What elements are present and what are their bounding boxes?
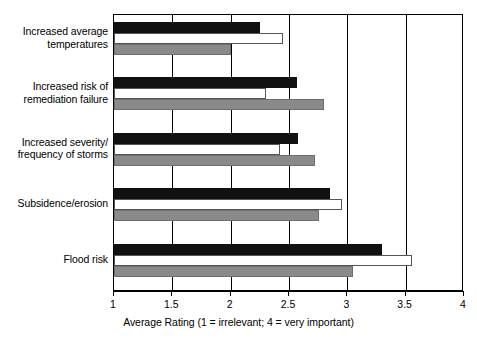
x-tick <box>113 291 114 296</box>
bar-residential <box>114 210 319 221</box>
bar-chart-figure: Increased averagetemperaturesIncreased r… <box>0 0 477 339</box>
bar-group <box>114 70 462 125</box>
bar-commercial <box>114 255 412 266</box>
category-label-line: Increased severity/ <box>0 136 108 149</box>
bar-residential <box>114 155 315 166</box>
x-tick <box>171 291 172 296</box>
bar-group <box>114 181 462 236</box>
x-tick-label: 4 <box>460 298 466 310</box>
category-label-line: remediation failure <box>0 93 108 106</box>
x-tick-label: 1 <box>110 298 116 310</box>
plot-area: Both Commercial Residential <box>113 14 463 291</box>
bar-both <box>114 244 382 255</box>
bar-residential <box>114 99 324 110</box>
category-label-line: frequency of storms <box>0 148 108 161</box>
bar-series-container <box>114 15 462 290</box>
bar-group <box>114 15 462 70</box>
bar-both <box>114 188 330 199</box>
x-tick-label: 2.5 <box>281 298 296 310</box>
category-label-line: temperatures <box>0 38 108 51</box>
category-label-line: Flood risk <box>0 253 108 266</box>
x-axis: 11.522.533.54 <box>113 291 463 292</box>
bar-commercial <box>114 88 266 99</box>
category-label-line: Subsidence/erosion <box>0 197 108 210</box>
x-tick <box>405 291 406 296</box>
x-tick <box>288 291 289 296</box>
x-tick <box>463 291 464 296</box>
bar-residential <box>114 44 231 55</box>
x-tick <box>230 291 231 296</box>
bar-residential <box>114 266 353 277</box>
bar-group <box>114 237 462 292</box>
x-tick-label: 1.5 <box>164 298 179 310</box>
bar-commercial <box>114 144 280 155</box>
bar-commercial <box>114 199 342 210</box>
x-tick <box>346 291 347 296</box>
x-tick-label: 2 <box>227 298 233 310</box>
bar-both <box>114 22 260 33</box>
bar-both <box>114 133 298 144</box>
bar-both <box>114 77 297 88</box>
category-label: Increased severity/frequency of storms <box>0 136 108 161</box>
category-label: Flood risk <box>0 253 108 266</box>
category-label: Increased averagetemperatures <box>0 25 108 50</box>
x-tick-label: 3 <box>343 298 349 310</box>
bar-group <box>114 126 462 181</box>
category-label-line: Increased risk of <box>0 80 108 93</box>
category-label: Increased risk ofremediation failure <box>0 80 108 105</box>
x-tick-label: 3.5 <box>397 298 412 310</box>
bar-commercial <box>114 33 283 44</box>
x-axis-title: Average Rating (1 = irrelevant; 4 = very… <box>0 316 477 328</box>
category-label-line: Increased average <box>0 25 108 38</box>
category-label: Subsidence/erosion <box>0 197 108 210</box>
